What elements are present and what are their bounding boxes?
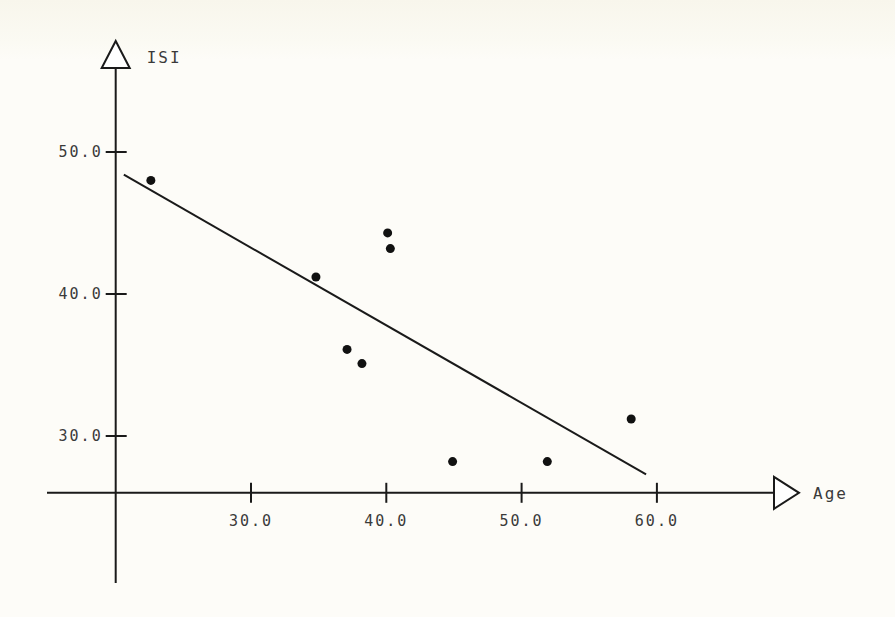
data-point xyxy=(357,359,366,368)
data-point xyxy=(343,345,352,354)
data-point xyxy=(543,457,552,466)
x-tick-label: 50.0 xyxy=(500,512,544,530)
y-axis-label: ISI xyxy=(147,48,182,67)
data-points xyxy=(146,176,635,466)
x-axis-label: Age xyxy=(813,484,848,503)
x-axis-arrow-icon xyxy=(774,477,799,509)
y-tick-label: 40.0 xyxy=(59,285,103,303)
y-tick-label: 30.0 xyxy=(59,427,103,445)
regression-line xyxy=(124,175,646,475)
x-tick-label: 60.0 xyxy=(635,512,679,530)
data-point xyxy=(627,414,636,423)
data-point xyxy=(383,228,392,237)
data-point xyxy=(311,272,320,281)
y-axis-arrow-icon xyxy=(102,41,130,68)
data-point xyxy=(386,244,395,253)
scatter-chart: ISI Age 30.040.050.060.0 30.040.050.0 xyxy=(0,0,895,617)
data-point xyxy=(448,457,457,466)
x-tick-label: 30.0 xyxy=(229,512,273,530)
x-tick-label: 40.0 xyxy=(364,512,408,530)
y-tick-label: 50.0 xyxy=(59,143,103,161)
data-point xyxy=(146,176,155,185)
chart-page: ISI Age 30.040.050.060.0 30.040.050.0 xyxy=(0,0,895,617)
x-ticks: 30.040.050.060.0 xyxy=(229,483,679,530)
